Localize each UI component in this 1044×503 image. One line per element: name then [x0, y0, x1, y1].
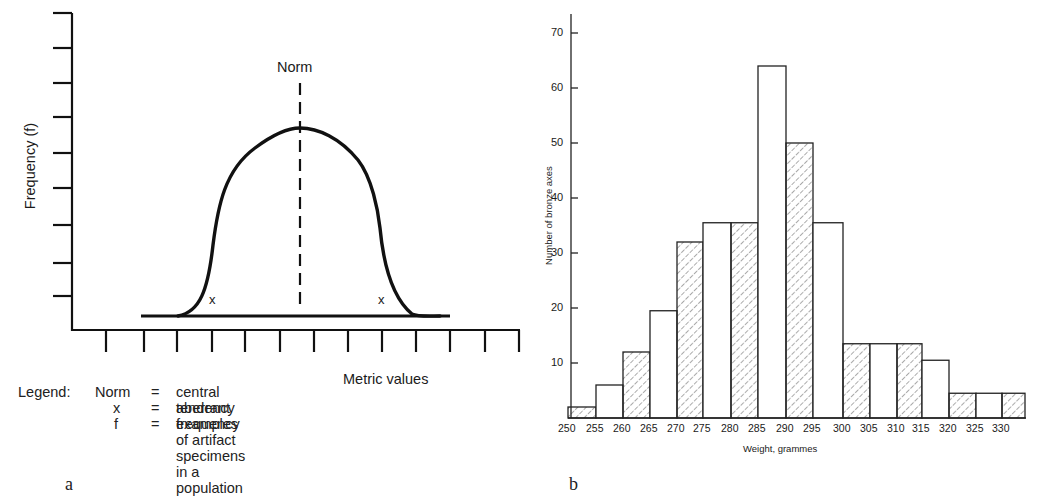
x-tick-label: 290 [776, 422, 794, 434]
histogram-bar-265 [650, 311, 677, 418]
histogram-bar-320 [949, 393, 976, 418]
x-tick-label: 265 [640, 422, 658, 434]
x-tick-label: 300 [833, 422, 851, 434]
y-tick-label: 10 [551, 356, 563, 368]
histogram-bar-325 [976, 393, 1002, 418]
panel-b-y-axis-label: Number of bronze axes [543, 146, 554, 286]
histogram-bar-255 [596, 385, 623, 418]
x-tick-label: 295 [803, 422, 821, 434]
histogram-bar-275 [703, 223, 731, 418]
histogram-bar-280 [731, 223, 758, 418]
histogram-bar-285 [758, 66, 786, 418]
histogram-bars [568, 66, 1025, 418]
x-tick-label: 320 [939, 422, 957, 434]
histogram-bar-310 [897, 344, 922, 418]
histogram-bar-305 [870, 344, 897, 418]
x-tick-label: 255 [586, 422, 604, 434]
x-tick-label: 275 [693, 422, 711, 434]
x-tick-label: 270 [667, 422, 685, 434]
x-tick-label: 280 [721, 422, 739, 434]
histogram-bar-295 [813, 223, 843, 418]
x-tick-label: 315 [912, 422, 930, 434]
panel-b-x-axis-label: Weight, grammes [743, 443, 817, 454]
y-tick-label: 70 [551, 26, 563, 38]
x-tick-label: 285 [748, 422, 766, 434]
panel-b-label: b [569, 474, 578, 495]
histogram-bar-300 [843, 344, 870, 418]
x-tick-label: 260 [613, 422, 631, 434]
x-tick-label: 310 [887, 422, 905, 434]
panel-b-y-axis [571, 14, 578, 418]
y-tick-label: 20 [551, 301, 563, 313]
x-tick-label: 325 [966, 422, 984, 434]
histogram-bar-250 [568, 407, 596, 418]
y-tick-label: 60 [551, 81, 563, 93]
histogram-bar-260 [623, 352, 650, 418]
histogram-bar-330 [1002, 393, 1025, 418]
x-tick-label: 305 [860, 422, 878, 434]
histogram-bar-315 [922, 360, 949, 418]
x-tick-label: 330 [992, 422, 1010, 434]
histogram-bar-270 [677, 242, 703, 418]
histogram-bar-290 [786, 143, 813, 418]
x-tick-label: 250 [558, 422, 576, 434]
